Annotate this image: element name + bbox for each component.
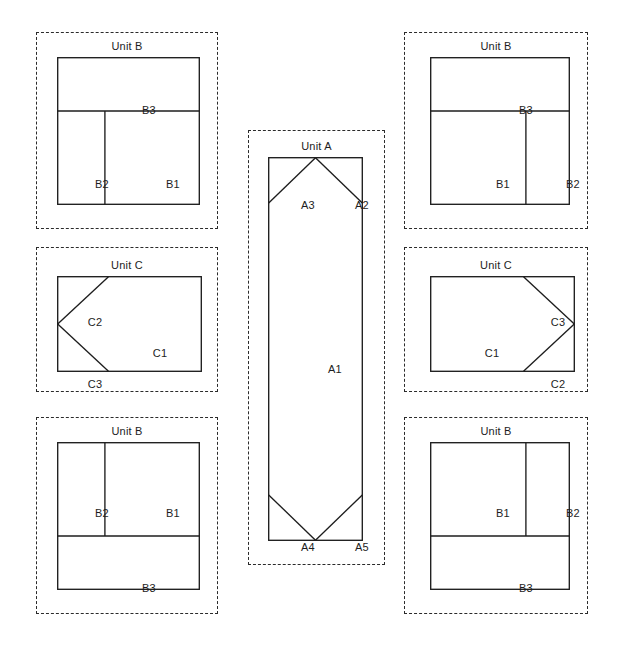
- unit-panel-unit-c-right: Unit CC3C1C2: [404, 247, 588, 392]
- cell-label-b3: B3: [142, 582, 156, 594]
- panel-title: Unit C: [404, 259, 588, 272]
- panel-title: Unit B: [404, 425, 588, 438]
- cell-label-a2: A2: [355, 199, 369, 211]
- cell-label-c2: C2: [88, 316, 103, 328]
- panel-title: Unit C: [36, 259, 218, 272]
- panel-title: Unit B: [404, 40, 588, 53]
- panel-title: Unit B: [36, 40, 218, 53]
- unit-outline-C: [57, 276, 202, 372]
- unit-outline-A: [268, 157, 363, 541]
- cell-label-a4: A4: [301, 541, 315, 553]
- unit-panel-unit-c-left: Unit CC2C1C3: [36, 247, 218, 392]
- unit-layout-diagram: Unit BB3B2B1Unit BB3B1B2Unit CC2C1C3Unit…: [0, 0, 621, 649]
- cell-label-c3: C3: [88, 378, 103, 390]
- unit-panel-unit-a-center: Unit AA3A2A1A4A5: [248, 130, 385, 565]
- cell-label-b1: B1: [166, 507, 180, 519]
- cell-label-a3: A3: [301, 199, 315, 211]
- cell-label-b3: B3: [519, 104, 533, 116]
- unit-panel-unit-b-bottom-left: Unit BB2B1B3: [36, 417, 218, 614]
- cell-label-c3: C3: [551, 316, 566, 328]
- cell-label-b1: B1: [166, 178, 180, 190]
- unit-panel-unit-b-bottom-right: Unit BB1B2B3: [404, 417, 588, 614]
- unit-panel-unit-b-top-right: Unit BB3B1B2: [404, 32, 588, 229]
- cell-label-c1: C1: [485, 347, 500, 359]
- panel-title: Unit B: [36, 425, 218, 438]
- unit-panel-unit-b-top-left: Unit BB3B2B1: [36, 32, 218, 229]
- cell-label-b3: B3: [142, 104, 156, 116]
- cell-label-b1: B1: [496, 178, 510, 190]
- cell-label-c1: C1: [153, 347, 168, 359]
- cell-label-b2: B2: [95, 507, 109, 519]
- panel-title: Unit A: [248, 140, 385, 153]
- cell-label-a5: A5: [355, 541, 369, 553]
- cell-label-a1: A1: [328, 363, 342, 375]
- cell-label-b1: B1: [496, 507, 510, 519]
- cell-label-c2: C2: [551, 378, 566, 390]
- cell-label-b2: B2: [566, 507, 580, 519]
- cell-label-b2: B2: [566, 178, 580, 190]
- cell-label-b3: B3: [519, 582, 533, 594]
- cell-label-b2: B2: [95, 178, 109, 190]
